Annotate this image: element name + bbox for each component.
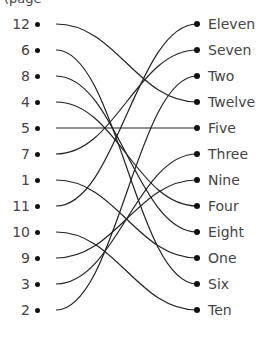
right-label: Nine [208, 172, 240, 188]
right-label: Ten [208, 302, 232, 318]
left-dot[interactable] [35, 204, 40, 209]
right-dot[interactable] [194, 73, 200, 79]
left-label: 10 [0, 224, 30, 240]
left-dot[interactable] [35, 100, 40, 105]
left-dot[interactable] [35, 178, 40, 183]
right-dot[interactable] [194, 255, 200, 261]
left-label: 8 [0, 68, 30, 84]
right-label: Five [208, 120, 236, 136]
right-label: Eight [208, 224, 244, 240]
left-label: 7 [0, 146, 30, 162]
left-label: 12 [0, 16, 30, 32]
connection-line [56, 232, 197, 310]
right-label: Six [208, 276, 229, 292]
left-label: 1 [0, 172, 30, 188]
right-label: Four [208, 198, 239, 214]
right-label: Three [208, 146, 248, 162]
left-dot[interactable] [35, 230, 40, 235]
connection-line [56, 76, 197, 310]
left-label: 5 [0, 120, 30, 136]
right-dot[interactable] [194, 307, 200, 313]
left-label: 9 [0, 250, 30, 266]
left-dot[interactable] [35, 308, 40, 313]
left-dot[interactable] [35, 48, 40, 53]
connection-line [56, 50, 197, 284]
connection-line [56, 24, 197, 102]
right-label: Two [208, 68, 234, 84]
right-label: One [208, 250, 237, 266]
left-label: 6 [0, 42, 30, 58]
connection-line [56, 24, 197, 206]
left-label: 3 [0, 276, 30, 292]
left-dot[interactable] [35, 126, 40, 131]
right-dot[interactable] [194, 47, 200, 53]
right-label: Seven [208, 42, 251, 58]
right-dot[interactable] [194, 99, 200, 105]
left-dot[interactable] [35, 22, 40, 27]
right-dot[interactable] [194, 177, 200, 183]
right-label: Twelve [208, 94, 255, 110]
right-dot[interactable] [194, 21, 200, 27]
connection-line [56, 102, 197, 206]
right-label: Eleven [208, 16, 255, 32]
left-dot[interactable] [35, 152, 40, 157]
right-dot[interactable] [194, 229, 200, 235]
connection-line [56, 50, 197, 154]
left-dot[interactable] [35, 74, 40, 79]
right-dot[interactable] [194, 281, 200, 287]
right-dot[interactable] [194, 125, 200, 131]
left-label: 11 [0, 198, 30, 214]
left-label: 2 [0, 302, 30, 318]
left-dot[interactable] [35, 282, 40, 287]
right-dot[interactable] [194, 203, 200, 209]
left-label: 4 [0, 94, 30, 110]
right-dot[interactable] [194, 151, 200, 157]
connection-line [56, 154, 197, 284]
left-dot[interactable] [35, 256, 40, 261]
